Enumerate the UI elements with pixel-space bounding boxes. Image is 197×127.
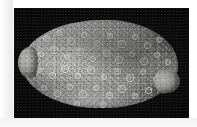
anterior-lobe-texture: [18, 47, 38, 78]
photographic-plate: [14, 8, 189, 118]
anterior-lobe: [18, 47, 38, 78]
specimen: [14, 8, 189, 118]
posterior-flap-texture: [153, 69, 181, 95]
figure-root: [0, 0, 197, 127]
page-margin-bottom: [0, 118, 197, 127]
body-rim-highlight: [22, 20, 178, 108]
specimen-body: [22, 20, 178, 108]
page-margin-left: [0, 0, 13, 127]
posterior-flap: [153, 69, 181, 95]
